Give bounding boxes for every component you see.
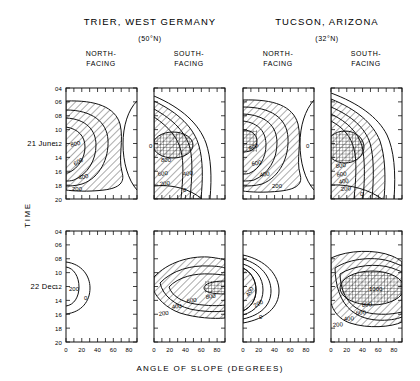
y-tick: 10: [55, 270, 63, 276]
x-tick: 80: [303, 347, 311, 353]
contour-label: 200: [72, 186, 83, 192]
x-tick: 60: [198, 347, 206, 353]
x-tick: 40: [271, 347, 279, 353]
y-tick: 06: [55, 99, 63, 105]
row-label-june: 21 June: [27, 139, 56, 148]
y-tick: 10: [55, 127, 63, 133]
x-tick: 40: [182, 347, 190, 353]
y-tick: 04: [55, 86, 63, 92]
y-tick: 20: [55, 340, 63, 346]
x-tick: 0: [64, 347, 68, 353]
contour-label: 400: [182, 170, 193, 177]
column-header-tucson-south-l2: FACING: [351, 60, 381, 67]
y-tick: 08: [55, 113, 63, 119]
row-label-dec: 22 Dec: [30, 282, 56, 291]
contour-figure: TRIER, WEST GERMANY (50°N) TUCSON, ARIZO…: [0, 0, 420, 381]
x-tick: 20: [78, 347, 86, 353]
column-header-trier-north-l2: FACING: [86, 60, 116, 67]
contour-label: 1000: [369, 286, 383, 292]
contour-label: 200: [341, 185, 352, 192]
x-tick: 60: [375, 347, 383, 353]
contour-label: 200: [158, 310, 169, 317]
column-header-tucson-north-l1: NORTH-: [263, 50, 294, 57]
y-tick-labels-row1: 04 06 08 10 12 14 16 18 20: [55, 86, 63, 203]
contour-label: 800: [362, 301, 373, 308]
contour-label: 800: [161, 157, 172, 163]
y-tick: 14: [55, 155, 63, 161]
y-tick: 18: [55, 183, 63, 189]
y-tick-labels-row2: 04 06 08 10 12 14 16 18 20: [55, 229, 63, 346]
x-tick: 40: [94, 347, 102, 353]
x-tick: 0: [329, 347, 333, 353]
x-tick: 20: [166, 347, 174, 353]
contour-label: 200: [333, 321, 344, 328]
site-title-tucson: TUCSON, ARIZONA: [275, 16, 379, 27]
contour-label: 200: [272, 183, 283, 189]
column-header-tucson-north-l2: FACING: [263, 60, 293, 67]
y-tick: 16: [55, 169, 63, 175]
x-tick: 40: [359, 347, 367, 353]
contour-label: 600: [356, 309, 367, 316]
contour-label: 400: [344, 315, 355, 322]
column-header-trier-north-l1: NORTH-: [86, 50, 117, 57]
contours-tucson-south-dec: [331, 251, 404, 326]
y-tick: 12: [55, 284, 63, 290]
contour-label: 800: [335, 162, 346, 169]
contour-label: 200: [69, 286, 80, 292]
y-tick: 06: [55, 242, 63, 248]
x-tick: 60: [110, 347, 118, 353]
y-tick: 14: [55, 298, 63, 304]
y-tick: 16: [55, 312, 63, 318]
x-tick: 80: [214, 347, 222, 353]
x-tick-labels: 020406080020406080020406080020406080: [64, 347, 398, 353]
column-header-trier-south-l2: FACING: [174, 60, 204, 67]
x-tick: 0: [152, 347, 156, 353]
contours-trier-south-dec: [154, 257, 225, 318]
y-tick: 18: [55, 326, 63, 332]
contour-label: 600: [157, 170, 168, 177]
contour-label: 0: [306, 143, 310, 149]
column-header-tucson-south-l1: SOUTH-: [351, 50, 381, 57]
site-latitude-trier: (50°N): [138, 35, 161, 43]
y-axis-label: TIME: [23, 202, 32, 228]
y-tick: 12: [55, 141, 63, 147]
x-tick: 20: [255, 347, 263, 353]
x-axis-label: ANGLE OF SLOPE (DEGREES): [136, 364, 283, 373]
x-tick: 0: [241, 347, 245, 353]
contour-label: 0: [149, 143, 153, 149]
contour-label: 200: [159, 180, 170, 187]
x-tick: 80: [126, 347, 134, 353]
x-tick: 60: [287, 347, 295, 353]
column-header-trier-south-l1: SOUTH-: [174, 50, 204, 57]
y-tick: 08: [55, 256, 63, 262]
x-tick: 20: [343, 347, 351, 353]
y-tick: 20: [55, 197, 63, 203]
site-title-trier: TRIER, WEST GERMANY: [84, 16, 217, 27]
y-tick: 04: [55, 229, 63, 235]
x-tick: 80: [391, 347, 399, 353]
contours-tucson-south-june: [326, 93, 395, 199]
site-latitude-tucson: (32°N): [315, 35, 338, 43]
